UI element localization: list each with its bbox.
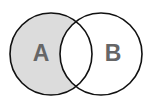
venn-svg: A B [0,0,150,107]
label-b: B [105,40,122,66]
label-a: A [33,40,50,66]
venn-diagram: A B [0,0,150,107]
